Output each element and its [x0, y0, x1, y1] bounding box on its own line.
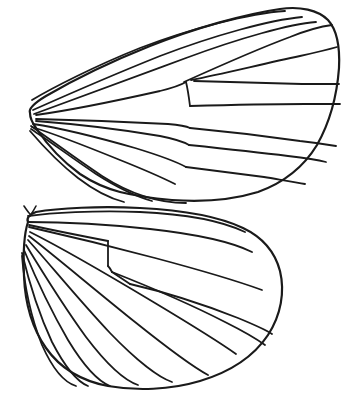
figure-background: [0, 0, 351, 394]
wing-venation-drawing: [0, 0, 351, 394]
wing-venation-figure: [0, 0, 351, 394]
